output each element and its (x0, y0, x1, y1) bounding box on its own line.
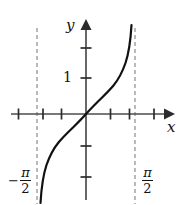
tangent-graph-figure: y x 1 − π 2 π 2 (0, 0, 183, 205)
fraction-numerator: π (20, 166, 31, 180)
asymptote-label-neg-pi-over-2: − π 2 (8, 166, 31, 196)
y-axis-arrowhead (81, 19, 92, 30)
y-tick-label-one: 1 (63, 70, 72, 84)
minus-sign: − (8, 174, 20, 187)
y-axis-label: y (66, 18, 74, 33)
fraction-stack: π 2 (142, 166, 153, 196)
fraction-denominator: 2 (142, 181, 152, 195)
x-axis-label: x (167, 120, 175, 135)
fraction-numerator: π (142, 166, 153, 180)
fraction-stack: π 2 (20, 166, 31, 196)
asymptote-label-pos-pi-over-2: π 2 (142, 166, 153, 196)
fraction-denominator: 2 (20, 181, 30, 195)
